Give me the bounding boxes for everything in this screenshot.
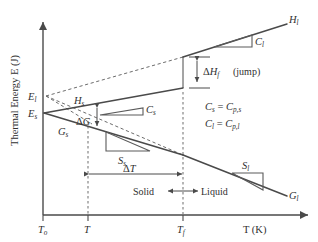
label-heat-capacity-liquid: Cl [255,36,264,49]
slope-triangle-ss [106,132,150,151]
slope-triangle-cs [100,108,143,115]
diagram-canvas: Thermal Energy E (J) T (K) To T Tf El Es… [0,0,318,242]
label-jump-note: (jump) [233,66,260,78]
curve-gibbs-liquid [183,155,287,196]
label-enthalpy-of-fusion: ΔHf [203,66,220,79]
x-axis-title: T (K) [243,224,267,236]
curve-enthalpy-solid [44,88,183,113]
gl-extension-line [46,96,183,155]
equation-heat-capacity-liquid: Cl = Cp,l [205,118,240,131]
hl-extension-line [46,57,183,96]
label-energy-liquid: El [27,91,36,104]
x-tick-label-t0: To [38,224,48,237]
label-phase-solid: Solid [133,186,154,197]
dashed-extensions [46,57,183,155]
x-axis-ticks [43,215,183,221]
x-tick-label-t: T [84,224,91,235]
thermal-energy-diagram: Thermal Energy E (J) T (K) To T Tf El Es… [0,0,318,242]
label-gibbs-solid: Gs [58,126,69,139]
label-heat-capacity-solid: Cs [146,104,156,117]
label-temperature-interval: ΔT [123,163,137,174]
x-tick-label-tf: Tf [177,224,186,237]
label-energy-solid: Es [27,108,37,121]
y-axis-title: Thermal Energy E (J) [9,54,21,146]
equation-heat-capacity-solid: Cs = Cp,s [205,101,241,114]
label-entropy-liquid: Sl [242,160,249,173]
slope-triangle-sl [232,173,263,190]
label-phase-liquid: Liquid [201,186,228,197]
label-gibbs-liquid: Gl [289,190,299,203]
curves-group [44,24,287,196]
label-enthalpy-liquid: Hl [288,14,299,27]
slope-triangle-cl [214,35,252,47]
label-gibbs-difference: ΔG [76,116,91,127]
